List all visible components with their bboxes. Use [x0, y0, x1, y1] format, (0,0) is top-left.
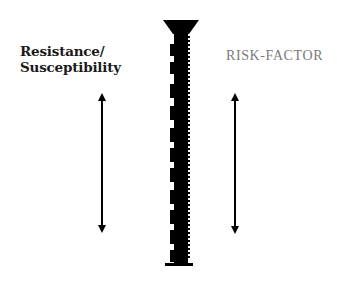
- diagram-canvas: [0, 0, 337, 281]
- screw-base: [165, 263, 193, 266]
- screw-icon: [163, 20, 199, 266]
